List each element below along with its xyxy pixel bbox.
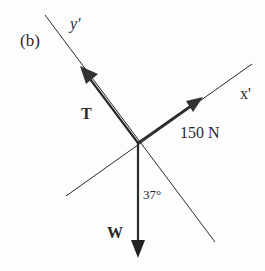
weight-arrowhead-icon <box>131 240 145 258</box>
angle-label: 37° <box>143 188 161 201</box>
y-prime-label: y' <box>70 16 81 32</box>
weight-label: W <box>107 225 123 241</box>
tension-label: T <box>81 106 92 122</box>
force-150n-arrowhead-icon <box>186 97 203 112</box>
x-prime-label: x' <box>240 86 251 102</box>
force-150n-label: 150 N <box>180 125 220 141</box>
panel-label: (b) <box>20 32 40 49</box>
tension-vector <box>90 79 138 143</box>
tension-arrowhead-icon <box>80 66 98 84</box>
free-body-diagram: (b) y' x' T 150 N 37° W <box>0 0 265 271</box>
